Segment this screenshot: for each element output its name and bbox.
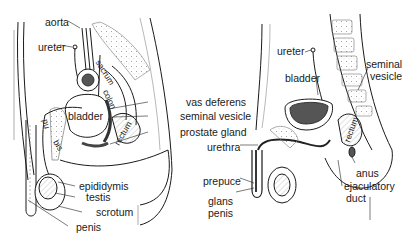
label-seminal-vesicle-left: seminal vesicle [180,111,251,122]
label-bladder-left: bladder [68,111,103,122]
label-aorta: aorta [45,17,69,28]
label-urethra: urethra [207,142,240,153]
label-glans-penis-line2: penis [208,208,233,219]
label-prepuce: prepuce [203,176,241,187]
label-ureter-right: ureter [277,46,304,57]
label-seminal-vesicle-right-line1: seminal [366,59,402,70]
label-ejaculatory-duct-line2: duct [346,193,366,204]
label-scrotum: scrotum [96,207,133,218]
label-anus: anus [356,168,379,179]
label-ureter-left: ureter [38,42,65,53]
label-glans-penis-line1: glans [208,196,233,207]
label-bladder-right: bladder [285,73,320,84]
label-seminal-vesicle-right-line2: vesicle [370,71,402,82]
label-ejaculatory-duct-line1: ejaculatory [344,181,395,192]
label-testis: testis [86,192,111,203]
label-vas-deferens: vas deferens [186,97,246,108]
label-prostate-gland: prostate gland [180,127,247,138]
label-penis: penis [76,222,101,233]
diagram-stage: aorta ureter sacrum colon bladder rectum… [0,0,420,240]
